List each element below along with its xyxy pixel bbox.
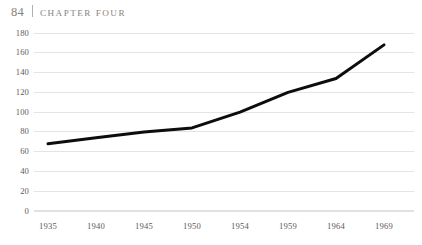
- x-axis-tick-label: 1935: [28, 221, 68, 231]
- y-axis-tick-label: 0: [25, 206, 29, 216]
- y-axis-tick-label: 180: [16, 28, 29, 38]
- x-axis-tick-label: 1954: [220, 221, 260, 231]
- y-axis-tick-label: 20: [20, 186, 29, 196]
- x-axis-tick-label: 1969: [364, 221, 404, 231]
- x-axis-tick-label: 1964: [316, 221, 356, 231]
- y-axis-tick-label: 60: [20, 146, 29, 156]
- plot-area: [0, 0, 422, 245]
- data-line-series: [48, 45, 384, 144]
- x-axis-tick-label: 1945: [124, 221, 164, 231]
- y-axis-tick-label: 120: [16, 87, 29, 97]
- y-axis-tick-label: 160: [16, 47, 29, 57]
- y-axis-tick-label: 80: [20, 126, 29, 136]
- x-axis-tick-label: 1940: [76, 221, 116, 231]
- y-axis-tick-label: 40: [20, 166, 29, 176]
- gridlines: [34, 33, 414, 211]
- x-axis-tick-label: 1959: [268, 221, 308, 231]
- x-axis-tick-label: 1950: [172, 221, 212, 231]
- y-axis-tick-label: 140: [16, 67, 29, 77]
- line-chart: 84 CHAPTER FOUR 020406080100120140160180…: [0, 0, 422, 245]
- y-axis-tick-label: 100: [16, 107, 29, 117]
